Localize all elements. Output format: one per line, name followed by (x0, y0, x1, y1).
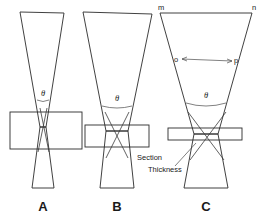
panel-c-lower-beam (184, 134, 228, 188)
panel-a-theta-label: θ (41, 88, 45, 98)
figure-root: θ A θ B (0, 0, 258, 218)
panel-c-upper-beam (160, 13, 252, 134)
panel-c-angle-arc (186, 103, 226, 106)
panel-a-lower-beam (32, 127, 54, 188)
section-thickness-label-line1: Section (137, 153, 162, 162)
panel-b-lower-beam (100, 131, 134, 188)
panel-a-angle-arc (37, 100, 49, 102)
panel-c-letter: C (201, 199, 211, 214)
panel-a: θ A (10, 12, 82, 214)
panel-a-section-slab (10, 112, 82, 149)
panel-a-letter: A (38, 199, 48, 214)
panel-b-upper-beam (83, 12, 152, 131)
vertex-label-o: o (174, 55, 178, 64)
panel-c-chord-op (182, 59, 232, 61)
panel-c-ray-right (190, 112, 226, 160)
section-thickness-leader (175, 143, 196, 166)
panel-b-angle-arc (102, 106, 132, 108)
vertex-label-n: n (252, 3, 256, 12)
panel-b-ray-right (106, 112, 129, 158)
panel-a-upper-beam (20, 12, 64, 127)
vertex-label-m: m (158, 3, 164, 12)
panel-b-letter: B (112, 199, 122, 214)
section-thickness-label-line2: Thickness (148, 165, 182, 174)
panel-b-theta-label: θ (115, 93, 119, 103)
panel-c-theta-label: θ (204, 90, 208, 100)
panel-b-ray-left (105, 112, 128, 158)
vertex-label-p: p (234, 56, 238, 65)
panel-c: θ m n o p Section Thickness C (137, 3, 256, 214)
panel-b: θ B (83, 12, 152, 214)
